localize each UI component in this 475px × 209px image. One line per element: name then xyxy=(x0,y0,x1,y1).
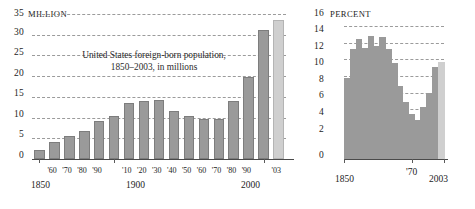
bar-80 xyxy=(79,131,89,159)
y-axis-label-10: 10 xyxy=(304,58,324,68)
x-label-70: '70 xyxy=(406,168,417,178)
bar-20 xyxy=(139,101,149,159)
y-axis-label-15: 15 xyxy=(2,89,24,99)
y-axis-label-4: 4 xyxy=(304,108,324,118)
x-label-70: '70 xyxy=(212,167,221,175)
x-label-10: '10 xyxy=(122,167,131,175)
millions-chart-caption: United States foreign-born population, 1… xyxy=(64,50,244,73)
x-label-30: '30 xyxy=(152,167,161,175)
area-series-percent xyxy=(344,26,444,159)
x-tick-70 xyxy=(412,159,413,163)
step-2003 xyxy=(438,62,444,159)
bar-50 xyxy=(184,116,194,159)
percent-plot-area xyxy=(344,26,444,159)
x-label-20: '20 xyxy=(137,167,146,175)
x-label-70: '70 xyxy=(62,167,71,175)
y-axis-label-35: 35 xyxy=(2,9,24,19)
y-axis-label-25: 25 xyxy=(2,48,24,58)
y-axis-label-5: 5 xyxy=(2,130,24,140)
x-label-80: '80 xyxy=(227,167,236,175)
y-axis-label-14: 14 xyxy=(304,25,324,35)
bar-90 xyxy=(243,77,253,159)
y-axis-label-20: 20 xyxy=(2,69,24,79)
x-label-1850: 1850 xyxy=(31,181,50,191)
bar-30 xyxy=(154,100,164,159)
bar-60 xyxy=(199,119,209,159)
x-label-90: '90 xyxy=(92,167,101,175)
x-tick-2003 xyxy=(444,159,445,163)
y-axis-label-6: 6 xyxy=(304,91,324,101)
bar-2000 xyxy=(258,30,268,159)
y-axis-unit-percent: PERCENT xyxy=(330,10,400,20)
bar-series-millions xyxy=(32,14,286,159)
x-label-40: '40 xyxy=(167,167,176,175)
x-label-60: '60 xyxy=(47,167,56,175)
millions-plot-area xyxy=(32,14,286,159)
millions-chart-panel: 35 MILLION 30 25 20 15 10 5 0 United Sta… xyxy=(0,0,300,209)
y-axis-label-12: 12 xyxy=(304,42,324,52)
x-label-1850: 1850 xyxy=(335,175,354,185)
y-axis-label-0: 0 xyxy=(2,151,24,161)
bar-60 xyxy=(49,142,59,159)
bar-03 xyxy=(273,20,283,159)
x-tick-2000 xyxy=(264,159,265,163)
x-label-80: '80 xyxy=(77,167,86,175)
x-label-03: '03 xyxy=(272,167,281,175)
bar-80 xyxy=(228,101,238,159)
x-tick-1850 xyxy=(344,159,345,163)
bar-70 xyxy=(64,136,74,159)
x-label-50: '50 xyxy=(182,167,191,175)
bar-70 xyxy=(214,119,224,159)
bar-10 xyxy=(124,103,134,159)
x-label-2000: 2000 xyxy=(241,181,260,191)
y-axis-label-2: 2 xyxy=(304,125,324,135)
y-axis-label-8: 8 xyxy=(304,75,324,85)
chart-figure: 35 MILLION 30 25 20 15 10 5 0 United Sta… xyxy=(0,0,475,209)
percent-chart-panel: 16 PERCENT 14 12 10 8 6 4 2 0 Foreign-bo… xyxy=(300,0,475,209)
bar-90 xyxy=(94,121,104,159)
x-label-90: '90 xyxy=(242,167,251,175)
x-tick-1900 xyxy=(114,159,115,163)
x-label-1900: 1900 xyxy=(126,181,145,191)
bar-40 xyxy=(169,111,179,159)
x-label-60: '60 xyxy=(197,167,206,175)
y-axis-label-16: 16 xyxy=(304,9,324,19)
y-axis-label-0: 0 xyxy=(304,151,324,161)
bar-1850 xyxy=(34,150,44,159)
x-label-2003: 2003 xyxy=(429,175,448,185)
x-tick-1850 xyxy=(39,159,40,163)
x-axis-line xyxy=(32,159,294,160)
x-axis-line xyxy=(344,159,448,160)
y-axis-label-10: 10 xyxy=(2,110,24,120)
y-axis-label-30: 30 xyxy=(2,28,24,38)
bar-1900 xyxy=(109,116,119,159)
